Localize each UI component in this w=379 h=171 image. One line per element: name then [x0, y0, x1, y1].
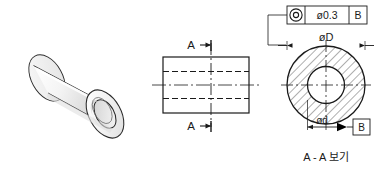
- datum-b-box: B: [353, 119, 370, 135]
- outer-diameter-label: øD: [319, 31, 334, 43]
- tolerance-value: ø0.3: [316, 9, 337, 21]
- section-view-a-a: øD ød B A - A 보기: [278, 31, 374, 164]
- engineering-drawing-sheet: øD ød B A - A 보기: [0, 0, 379, 171]
- feature-control-frame: ø0.3 B: [268, 6, 367, 45]
- feature-control-leader: [268, 15, 287, 45]
- section-arrow-top: [200, 40, 211, 51]
- section-letter-top: A: [187, 39, 195, 51]
- isometric-pictorial-view: [21, 49, 131, 145]
- section-arrow-bottom: [200, 121, 211, 132]
- section-letter-bottom: A: [187, 120, 195, 132]
- datum-b-label: B: [358, 122, 365, 133]
- inner-diameter-label: ød: [316, 115, 328, 126]
- section-view-caption: A - A 보기: [303, 151, 349, 163]
- fcf-datum-reference: B: [354, 9, 361, 21]
- front-orthographic-view: [152, 40, 260, 132]
- drawing-canvas: øD ød B A - A 보기: [0, 0, 379, 171]
